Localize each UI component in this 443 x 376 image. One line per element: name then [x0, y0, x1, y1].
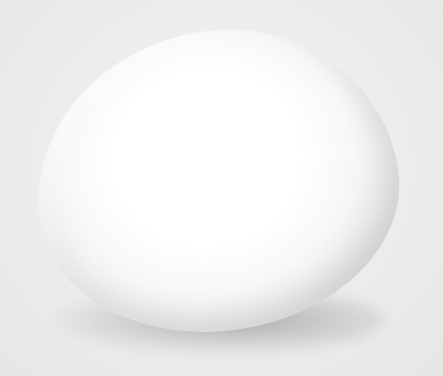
photo-scene	[0, 0, 443, 376]
